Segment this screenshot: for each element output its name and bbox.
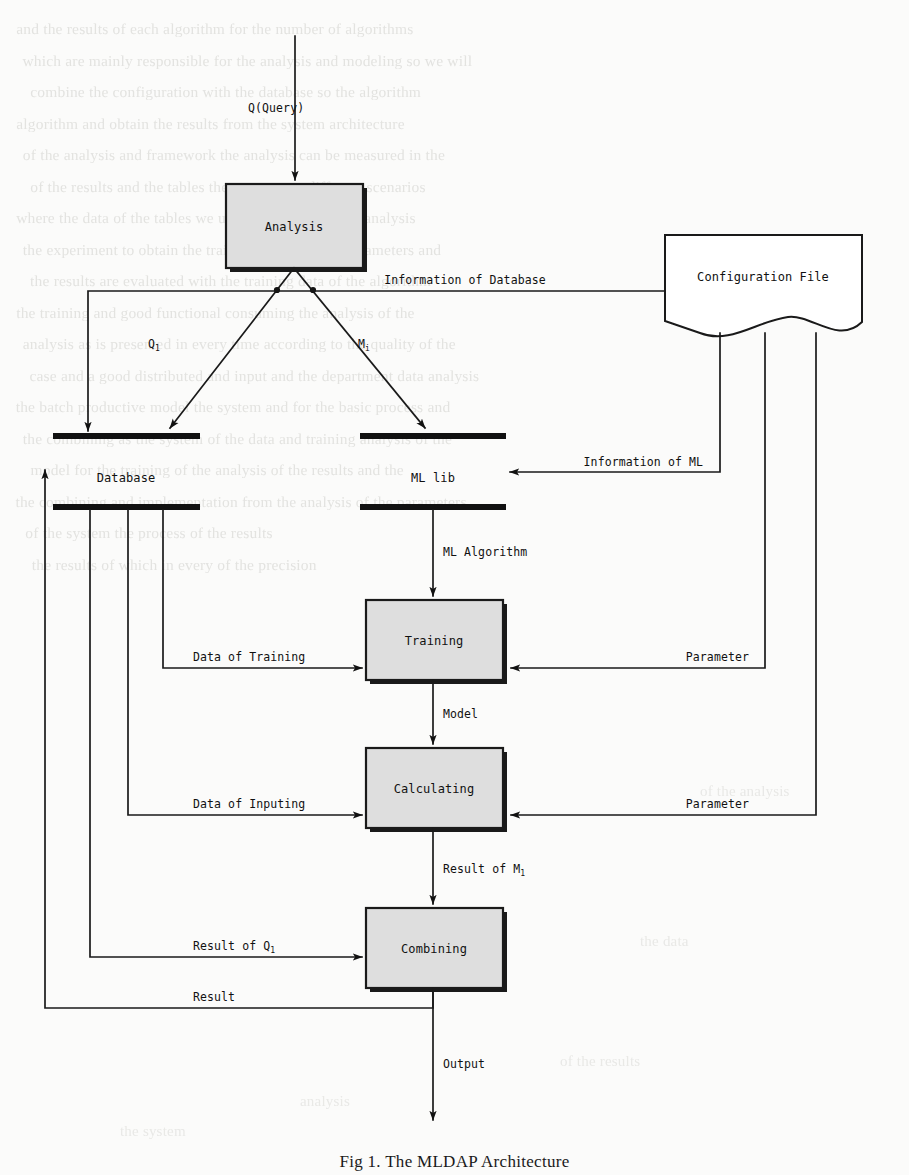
edge-information-of-database [88, 291, 665, 431]
edge-data-of-training [163, 510, 362, 668]
edge-parameter-training [511, 333, 765, 668]
edge-label-model: Model [443, 707, 478, 721]
edge-information-of-ml [510, 333, 720, 472]
edge-label-information-of-ml: Information of ML [584, 455, 703, 469]
edge-label-ml-algorithm: ML Algorithm [443, 545, 527, 559]
junction-dot-right [310, 287, 316, 293]
edge-result-of-q1 [90, 510, 362, 957]
figure-caption: Fig 1. The MLDAP Architecture [0, 1152, 909, 1172]
database-top-bar [53, 433, 200, 439]
calculating-label: Calculating [394, 782, 475, 796]
edge-label-result: Result [193, 990, 235, 1004]
edge-label-parameter-calculating: Parameter [686, 797, 749, 811]
configuration-file-label: Configuration File [697, 270, 829, 284]
ml-lib-bottom-bar [360, 504, 506, 510]
edge-label-output: Output [443, 1057, 485, 1071]
edge-label-query: Q(Query) [248, 101, 304, 115]
edge-label-result-of-m1: Result of M1 [443, 862, 525, 878]
edge-parameter-calculating [511, 333, 816, 815]
edge-label-data-of-inputing: Data of Inputing [193, 797, 305, 811]
edge-label-data-of-training: Data of Training [193, 650, 305, 664]
scanned-page: and the results of each algorithm for th… [0, 0, 909, 1175]
edge-label-mi: Mi [358, 337, 370, 353]
edge-label-parameter-training: Parameter [686, 650, 749, 664]
ml-lib-label: ML lib [411, 471, 455, 485]
training-label: Training [405, 634, 464, 648]
edge-label-result-of-q1: Result of Q1 [193, 939, 275, 955]
edge-label-information-of-database: Information of Database [384, 273, 546, 287]
combining-label: Combining [401, 942, 467, 956]
analysis-label: Analysis [265, 220, 324, 234]
edge-label-q1: Q1 [148, 337, 160, 353]
configuration-file-shape [665, 235, 862, 336]
ml-lib-top-bar [360, 433, 506, 439]
mldap-architecture-diagram: Q(Query) Analysis Q1 Mi Configuration Fi… [0, 0, 909, 1175]
database-bottom-bar [53, 504, 200, 510]
junction-dot-left [274, 287, 280, 293]
database-label: Database [97, 471, 156, 485]
